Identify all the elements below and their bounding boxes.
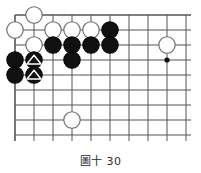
white-stone-disc[interactable] [83, 22, 99, 38]
black-stone[interactable] [45, 37, 61, 53]
black-stone-disc[interactable] [64, 37, 80, 53]
black-stone[interactable] [64, 37, 80, 53]
black-stone[interactable] [102, 22, 118, 38]
black-stone-triangle[interactable] [26, 67, 42, 83]
black-stone-disc[interactable] [83, 37, 99, 53]
black-stone[interactable] [64, 52, 80, 68]
white-stone-disc[interactable] [7, 22, 23, 38]
white-stone-disc[interactable] [26, 7, 42, 23]
white-stone[interactable] [83, 22, 99, 38]
figure-caption: 圖十 30 [0, 155, 201, 168]
white-stone[interactable] [7, 22, 23, 38]
white-stone[interactable] [45, 22, 61, 38]
white-stone[interactable] [64, 112, 80, 128]
black-stone-disc[interactable] [26, 52, 42, 68]
black-stone[interactable] [83, 37, 99, 53]
black-stone-disc[interactable] [45, 37, 61, 53]
black-stone[interactable] [7, 52, 23, 68]
star-point-icon [164, 57, 169, 62]
black-stone[interactable] [7, 67, 23, 83]
black-stone-triangle[interactable] [26, 52, 42, 68]
white-stone[interactable] [64, 22, 80, 38]
white-stone-disc[interactable] [26, 37, 42, 53]
black-stone-disc[interactable] [7, 52, 23, 68]
go-diagram-figure: 圖十 30 [0, 0, 201, 173]
white-stone-disc[interactable] [64, 112, 80, 128]
black-stone-disc[interactable] [102, 37, 118, 53]
black-stone[interactable] [102, 37, 118, 53]
black-stone-disc[interactable] [64, 52, 80, 68]
black-stone-disc[interactable] [7, 67, 23, 83]
white-stone[interactable] [159, 37, 175, 53]
white-stone-disc[interactable] [64, 22, 80, 38]
white-stone[interactable] [26, 7, 42, 23]
go-board[interactable] [0, 0, 201, 152]
white-stone-disc[interactable] [45, 22, 61, 38]
black-stone-disc[interactable] [102, 22, 118, 38]
black-stone-disc[interactable] [26, 67, 42, 83]
white-stone[interactable] [26, 37, 42, 53]
board-star-points [164, 57, 169, 62]
white-stone-disc[interactable] [159, 37, 175, 53]
